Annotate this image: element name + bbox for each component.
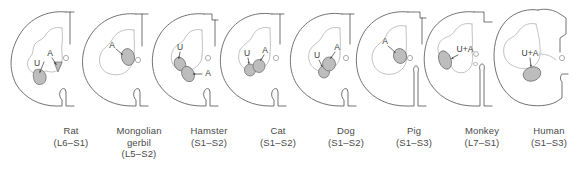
species-name-monkey: Monkey	[447, 125, 517, 137]
nucleus-label-u: U	[314, 50, 320, 60]
species-label-row: Rat (L6–S1) Mongolian gerbil (L5–S2) Ham…	[0, 122, 580, 173]
species-name-mongolian-gerbil-line1: Mongolian	[103, 125, 175, 137]
species-segments-human: (S1–S3)	[516, 137, 580, 149]
species-label-hamster: Hamster (S1–S2)	[175, 125, 243, 148]
species-label-monkey: Monkey (L7–S1)	[447, 125, 517, 148]
nucleus-label-ua: U+A	[522, 48, 539, 58]
nucleus-label-u: U	[177, 42, 183, 52]
human-section-drawing: U+A	[490, 0, 578, 118]
species-segments-rat: (L6–S1)	[40, 137, 102, 149]
nucleus-label-a: A	[47, 48, 53, 58]
species-label-rat: Rat (L6–S1)	[40, 125, 102, 148]
nucleus-label-u: U	[34, 58, 40, 68]
species-name-hamster: Hamster	[175, 125, 243, 137]
species-segments-hamster: (S1–S2)	[175, 137, 243, 149]
species-segments-dog: (S1–S2)	[313, 137, 379, 149]
species-label-dog: Dog (S1–S2)	[313, 125, 379, 148]
species-segments-cat: (S1–S2)	[245, 137, 311, 149]
species-name-cat: Cat	[245, 125, 311, 137]
mongolian-gerbil-section-drawing: A	[76, 0, 156, 118]
comparative-spinal-cord-figure: A U A	[0, 0, 580, 173]
nucleus-label-a: A	[382, 36, 388, 46]
species-segments-pig: (S1–S3)	[381, 137, 447, 149]
species-label-human: Human (S1–S3)	[516, 125, 580, 148]
panel-mongolian-gerbil: A	[76, 0, 156, 118]
species-name-human: Human	[516, 125, 580, 137]
rat-section-drawing: A U	[4, 0, 82, 118]
species-segments-mongolian-gerbil: (L5–S2)	[103, 148, 175, 160]
species-label-mongolian-gerbil: Mongolian gerbil (L5–S2)	[103, 125, 175, 160]
nucleus-label-u: U	[244, 48, 250, 58]
nucleus-label-a: A	[205, 68, 211, 78]
species-name-pig: Pig	[381, 125, 447, 137]
panel-rat: A U	[4, 0, 82, 118]
species-name-dog: Dog	[313, 125, 379, 137]
nucleus-label-ua: U+A	[457, 44, 474, 54]
nucleus-label-a: A	[334, 42, 340, 52]
nucleus-label-a: A	[109, 40, 115, 50]
species-label-cat: Cat (S1–S2)	[245, 125, 311, 148]
panel-human: U+A	[490, 0, 578, 118]
nucleus-label-a: A	[262, 45, 268, 55]
species-segments-monkey: (L7–S1)	[447, 137, 517, 149]
species-name-rat: Rat	[40, 125, 102, 137]
species-name-mongolian-gerbil-line2: gerbil	[103, 137, 175, 149]
species-label-pig: Pig (S1–S3)	[381, 125, 447, 148]
